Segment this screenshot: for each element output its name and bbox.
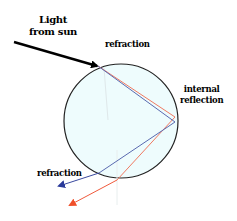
refraction-bottom-label: refraction [37, 168, 82, 178]
light-from-sun-label: Light from sun [29, 14, 77, 38]
internal-label-line2: reflection [180, 95, 223, 106]
raindrop-diagram: Light from sun refraction internal refle… [0, 0, 237, 221]
light-label-line2: from sun [29, 26, 77, 38]
light-label-line1: Light [29, 14, 77, 26]
refraction-top-label: refraction [105, 39, 150, 49]
incoming-light-arrow [14, 42, 97, 66]
internal-reflection-label: internal reflection [180, 84, 223, 106]
red-ray-exit-arrow [70, 180, 117, 205]
internal-label-line1: internal [180, 84, 223, 95]
